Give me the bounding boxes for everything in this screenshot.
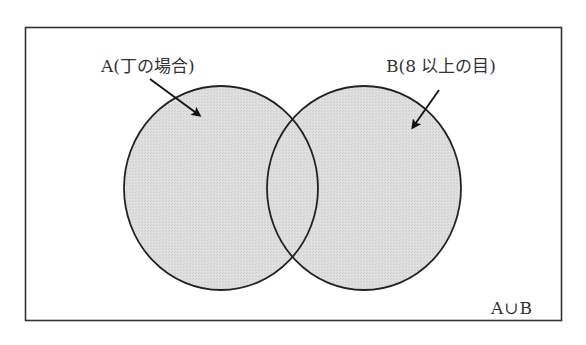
- set-a-label: A(丁の場合): [101, 52, 195, 77]
- union-label: A∪B: [491, 298, 533, 318]
- set-b-region: [267, 86, 461, 290]
- set-b-label: B(8 以上の目): [386, 52, 496, 77]
- venn-diagram: [0, 0, 586, 345]
